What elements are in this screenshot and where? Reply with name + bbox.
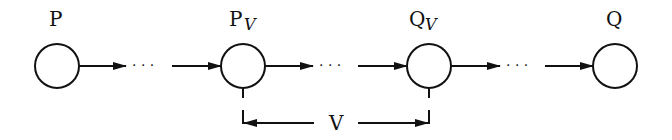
node-qv: [407, 44, 451, 88]
node-label-p: P: [49, 7, 62, 31]
span-bracket: V: [243, 88, 429, 135]
svg-text:V: V: [244, 15, 257, 34]
node-q: [593, 44, 637, 88]
span-label: V: [328, 111, 344, 135]
ellipsis: · · ·: [506, 57, 528, 73]
node-label-q: Q: [606, 7, 622, 31]
node-label-pv: P V: [229, 7, 257, 34]
ellipsis: · · ·: [132, 57, 154, 73]
node-pv: [221, 44, 265, 88]
svg-text:V: V: [425, 15, 438, 34]
svg-text:Q: Q: [409, 7, 425, 31]
node-label-qv: Q V: [409, 7, 438, 34]
ellipsis: · · ·: [319, 57, 341, 73]
node-p: [35, 44, 79, 88]
svg-text:P: P: [229, 7, 242, 31]
chain-diagram: P P V Q V Q · · · · · · · · · V: [0, 0, 672, 140]
